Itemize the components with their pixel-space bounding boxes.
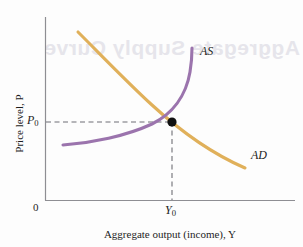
ad-curve-label: AD — [251, 149, 267, 161]
x-tick-label-y0-subscript: 0 — [172, 208, 176, 218]
x-tick-label-y0: Y0 — [165, 204, 176, 218]
equilibrium-point-dot — [167, 117, 176, 126]
chart-plot-area — [0, 0, 303, 247]
as-curve-label: AS — [200, 45, 213, 57]
as-curve — [63, 48, 192, 145]
ad-curve — [78, 32, 245, 168]
x-axis-title: Aggregate output (income), Y — [45, 229, 295, 240]
y-tick-label-p0-subscript: 0 — [34, 118, 38, 128]
y-tick-label-p0: P0 — [27, 114, 39, 128]
x-tick-label-y0-text: Y — [165, 203, 172, 217]
y-axis-title: Price level, P — [14, 74, 25, 174]
origin-label: 0 — [33, 202, 39, 213]
aggregate-supply-demand-chart: Aggregate Supply Curve Price level, P Ag… — [0, 0, 303, 247]
